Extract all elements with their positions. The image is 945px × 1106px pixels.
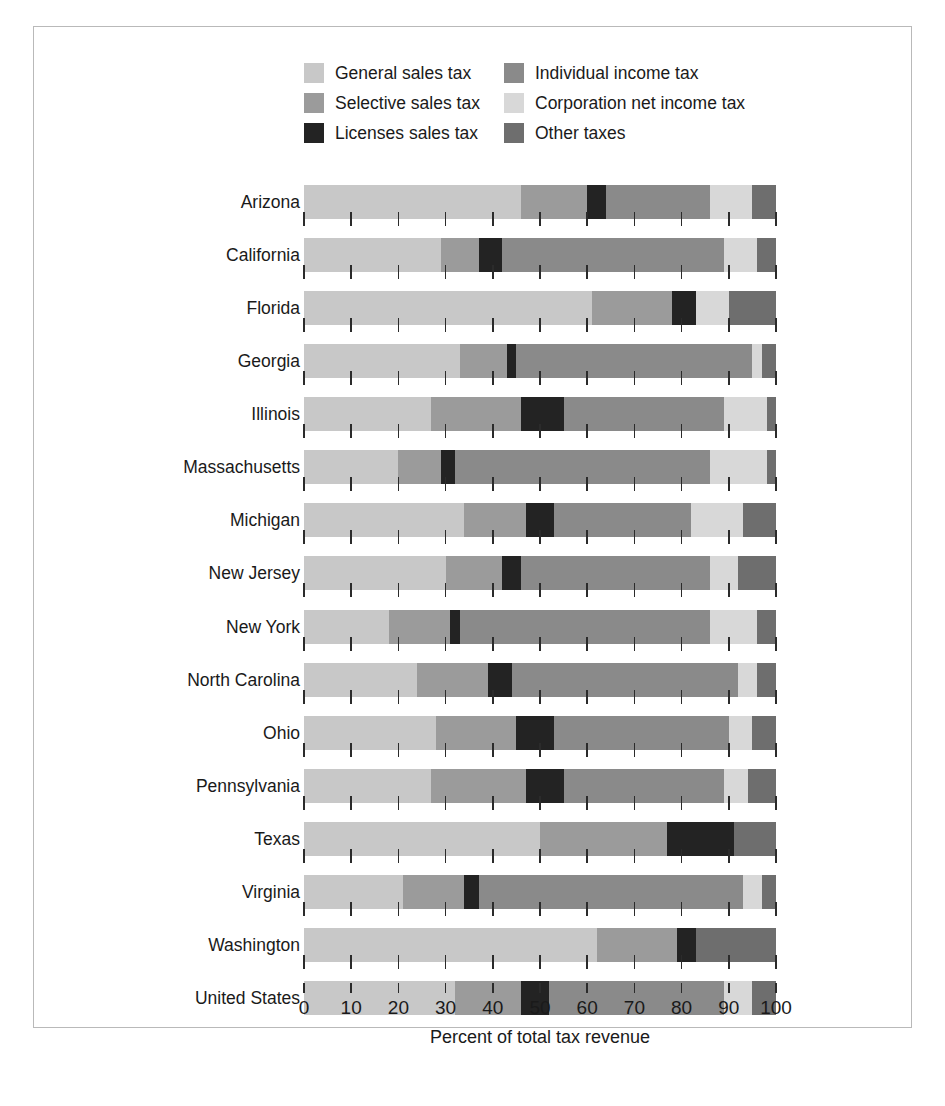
- legend-swatch-licenses-sales-tax: [304, 123, 324, 143]
- x-axis-tick-label: 50: [529, 997, 550, 1019]
- grid-tick: [681, 849, 683, 863]
- grid-tick: [539, 690, 541, 704]
- bar-segment: [757, 610, 776, 644]
- legend-item-corporation-net-income-tax: Corporation net income tax: [504, 93, 834, 113]
- grid-tick: [681, 424, 683, 438]
- grid-tick: [539, 424, 541, 438]
- grid-tick: [492, 743, 494, 757]
- bar-segment: [743, 875, 762, 909]
- bar-segment: [507, 344, 516, 378]
- bar-segment: [436, 716, 516, 750]
- bar-segment: [677, 928, 696, 962]
- x-axis-tick: [586, 983, 588, 993]
- grid-tick: [681, 318, 683, 332]
- grid-tick: [303, 318, 305, 332]
- legend-row: Selective sales tax Corporation net inco…: [304, 93, 864, 123]
- bar-segment: [743, 503, 776, 537]
- grid-tick: [728, 955, 730, 969]
- bar-row: Florida: [34, 281, 911, 334]
- grid-tick: [350, 477, 352, 491]
- grid-tick: [539, 371, 541, 385]
- bar-segment: [304, 663, 417, 697]
- bar-row: Georgia: [34, 334, 911, 387]
- x-axis-tick: [775, 983, 777, 993]
- bar-segment: [450, 610, 459, 644]
- grid-tick: [303, 743, 305, 757]
- grid-tick: [539, 955, 541, 969]
- grid-tick: [492, 265, 494, 279]
- bar-segment: [592, 291, 672, 325]
- grid-tick: [681, 955, 683, 969]
- bar-row: Washington: [34, 919, 911, 972]
- grid-tick: [586, 743, 588, 757]
- bar-segment: [738, 663, 757, 697]
- bar-row: Pennsylvania: [34, 759, 911, 812]
- y-axis-tick-label: Washington: [208, 935, 300, 956]
- bar-segment: [304, 981, 455, 1015]
- grid-tick: [350, 265, 352, 279]
- bar-segment: [734, 822, 776, 856]
- grid-tick: [492, 530, 494, 544]
- grid-tick: [350, 583, 352, 597]
- grid-tick: [586, 318, 588, 332]
- bar-segment: [752, 185, 776, 219]
- x-axis-tick: [445, 983, 447, 993]
- bar-segment: [441, 450, 455, 484]
- x-axis-label: Percent of total tax revenue: [304, 1027, 776, 1048]
- grid-tick: [303, 849, 305, 863]
- bar-segment: [696, 928, 776, 962]
- grid-tick: [728, 690, 730, 704]
- legend-swatch-individual-income-tax: [504, 63, 524, 83]
- x-axis-tick-label: 60: [577, 997, 598, 1019]
- grid-tick: [398, 265, 400, 279]
- x-axis-tick-label: 30: [435, 997, 456, 1019]
- bar-segment: [752, 344, 761, 378]
- grid-tick: [398, 318, 400, 332]
- bar-segment: [710, 556, 738, 590]
- grid-tick: [350, 424, 352, 438]
- bar-segment: [304, 185, 521, 219]
- bar-segment: [304, 397, 431, 431]
- bar-segment: [304, 344, 460, 378]
- grid-tick: [681, 902, 683, 916]
- legend-label-selective-sales-tax: Selective sales tax: [335, 93, 480, 113]
- grid-tick: [303, 371, 305, 385]
- grid-tick: [398, 690, 400, 704]
- legend-label-licenses-sales-tax: Licenses sales tax: [335, 123, 478, 143]
- bar-row: New York: [34, 600, 911, 653]
- bar-segment: [304, 716, 436, 750]
- grid-tick: [398, 371, 400, 385]
- grid-tick: [775, 212, 777, 226]
- grid-tick: [539, 318, 541, 332]
- bar-segment: [502, 556, 521, 590]
- grid-tick: [539, 530, 541, 544]
- grid-tick: [492, 902, 494, 916]
- y-axis-tick-label: North Carolina: [187, 669, 300, 690]
- grid-tick: [586, 637, 588, 651]
- bar-row: Virginia: [34, 866, 911, 919]
- legend-item-licenses-sales-tax: Licenses sales tax: [304, 123, 504, 143]
- grid-tick: [634, 318, 636, 332]
- bar-segment: [304, 503, 464, 537]
- grid-tick: [728, 796, 730, 810]
- grid-tick: [634, 265, 636, 279]
- grid-tick: [303, 424, 305, 438]
- y-axis-tick-label: Michigan: [230, 510, 300, 531]
- grid-tick: [350, 743, 352, 757]
- grid-tick: [681, 265, 683, 279]
- bar-segment: [757, 238, 776, 272]
- grid-tick: [539, 902, 541, 916]
- grid-tick: [681, 796, 683, 810]
- bar-segment: [748, 769, 776, 803]
- grid-tick: [539, 849, 541, 863]
- legend-label-other-taxes: Other taxes: [535, 123, 625, 143]
- grid-tick: [586, 955, 588, 969]
- bar-segment: [502, 238, 724, 272]
- grid-tick: [350, 796, 352, 810]
- grid-tick: [728, 424, 730, 438]
- bar-segment: [521, 185, 587, 219]
- grid-tick: [586, 690, 588, 704]
- x-axis-tick-label: 100: [760, 997, 792, 1019]
- x-axis-tick-label: 70: [624, 997, 645, 1019]
- bar-segment: [521, 397, 563, 431]
